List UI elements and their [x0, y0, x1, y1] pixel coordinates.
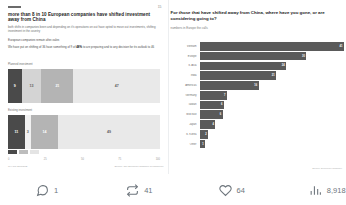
- bar-row: Other 1: [171, 140, 344, 149]
- like-button[interactable]: 64: [219, 184, 245, 197]
- left-chart-credit: CHART: EUROPE: [8, 165, 27, 168]
- bar-track: 1: [200, 140, 344, 149]
- bar-label: India: [171, 74, 200, 77]
- right-bar-chart: Vietnam 41 Europe 30: [171, 42, 344, 150]
- tweet-media-grid[interactable]: more than 8 in 10 European companies hav…: [0, 0, 346, 174]
- bar-track: 21: [200, 71, 344, 80]
- bar-value: 1: [202, 143, 203, 146]
- left-chart-source: Source: The European Chamber of commerce: [115, 165, 164, 168]
- like-count: 64: [237, 186, 245, 195]
- comment-icon: [36, 184, 49, 197]
- x-tick: 25: [44, 158, 47, 161]
- bar-fill: 16: [200, 81, 259, 90]
- kicker-rule: [8, 6, 21, 8]
- repost-button[interactable]: 41: [126, 184, 152, 197]
- left-chart-headline-number: 15: [158, 5, 162, 9]
- left-chart-legend: [8, 150, 39, 154]
- bar-label: Mid east: [171, 113, 200, 116]
- bar-value: 6: [221, 103, 222, 106]
- tweet-post: more than 8 in 10 European companies hav…: [0, 0, 346, 205]
- right-chart-source: Source: European Chamber: [312, 167, 342, 170]
- stack-segment: 13: [22, 69, 42, 103]
- bar-row: Europe 30: [171, 52, 344, 61]
- chart-image-left[interactable]: more than 8 in 10 European companies hav…: [0, 0, 169, 174]
- stacked-bar-1: 9 13 21 47: [8, 69, 160, 103]
- right-chart-subtitle: numbers in Europe the calls: [171, 26, 342, 30]
- left-chart-note-secondary: We have put on shifting of 36 have somet…: [8, 46, 160, 50]
- left-chart-footer: CHART: EUROPE Source: The European Chamb…: [8, 165, 164, 168]
- x-tick: 0: [8, 158, 9, 161]
- heart-icon: [219, 184, 232, 197]
- note-tail: to are preparing and to any decision for…: [83, 45, 154, 49]
- bar-fill: 6: [200, 110, 223, 119]
- retweet-icon: [126, 184, 139, 197]
- bar-label: Vietnam: [171, 45, 200, 48]
- bar-value: 21: [272, 74, 275, 77]
- stacked-bar-group-2: Existing investment 11 3 14 49: [8, 108, 164, 149]
- stack-segment: 49: [58, 115, 160, 149]
- bar-row: S. Korea 2: [171, 130, 344, 139]
- legend-swatch-already-shifted: [8, 150, 17, 154]
- note-bold-value: 48%: [76, 45, 82, 49]
- bar-track: 30: [200, 52, 344, 61]
- bar-row: India 21: [171, 71, 344, 80]
- stack-segment: 11: [8, 115, 25, 149]
- views-button[interactable]: 8,918: [309, 184, 346, 197]
- right-chart-headline: For those that have shifted away from Ch…: [171, 10, 345, 21]
- bar-fill: 2: [200, 130, 209, 139]
- reply-count: 1: [54, 186, 58, 195]
- x-tick: 100: [156, 158, 160, 161]
- bar-value: 24: [282, 64, 285, 67]
- bar-track: 7: [200, 91, 344, 100]
- bar-value: 7: [224, 94, 225, 97]
- bar-track: 16: [200, 81, 344, 90]
- bar-row: S. Asia 24: [171, 62, 344, 71]
- bar-track: 24: [200, 62, 344, 71]
- bar-fill: 30: [200, 52, 307, 61]
- stacked-bar-1-title: Planned investment: [8, 62, 164, 66]
- left-chart-header: more than 8 in 10 European companies hav…: [8, 6, 164, 50]
- views-count: 8,918: [327, 186, 346, 195]
- left-chart-x-axis: 0 25 50 75 100: [8, 158, 160, 161]
- bar-track: 6: [200, 110, 344, 119]
- left-chart-subtitle: both shifts in companies been and depend…: [8, 26, 160, 34]
- bar-track: 41: [200, 42, 344, 51]
- bar-fill: 6: [200, 101, 225, 110]
- bar-value: 16: [254, 84, 257, 87]
- bar-label: Japan: [171, 123, 200, 126]
- chart-image-right[interactable]: For those that have shifted away from Ch…: [169, 0, 346, 174]
- bar-fill: 4: [200, 120, 216, 129]
- analytics-icon: [309, 184, 322, 197]
- bar-label: Taiwan: [171, 103, 200, 106]
- left-chart-note: European companies remain after-sales: [8, 39, 160, 43]
- stacked-bar-2-title: Existing investment: [8, 108, 164, 112]
- bar-row: Taiwan 6: [171, 101, 344, 110]
- bar-row: Vietnam 41: [171, 42, 344, 51]
- bar-fill: 1: [200, 140, 206, 149]
- stack-segment: 21: [41, 69, 73, 103]
- stack-segment: 47: [73, 69, 160, 103]
- legend-swatch-considering: [19, 150, 28, 154]
- bar-track: 2: [200, 130, 344, 139]
- bar-label: S. Asia: [171, 64, 200, 67]
- stacked-bar-2: 11 3 14 49: [8, 115, 160, 149]
- bar-value: 6: [220, 113, 221, 116]
- bar-row: Germany 7: [171, 91, 344, 100]
- repost-count: 41: [144, 186, 152, 195]
- bar-row: Japan 4: [171, 120, 344, 129]
- stack-segment: 14: [31, 115, 58, 149]
- stacked-bar-group-1: Planned investment 9 13 21 47: [8, 62, 164, 103]
- bar-label: Other: [171, 143, 200, 146]
- right-chart-header: For those that have shifted away from Ch…: [171, 10, 342, 30]
- bar-track: 6: [200, 101, 344, 110]
- bar-value: 2: [205, 133, 206, 136]
- bar-fill: 7: [200, 91, 227, 100]
- bar-label: Americas: [171, 84, 200, 87]
- x-tick: 75: [118, 158, 121, 161]
- bar-label: Europe: [171, 55, 200, 58]
- bar-value: 41: [340, 45, 343, 48]
- reply-button[interactable]: 1: [36, 184, 58, 197]
- x-tick: 50: [81, 158, 84, 161]
- left-chart-headline: more than 8 in 10 European companies hav…: [8, 12, 156, 23]
- bar-row: Americas 16: [171, 81, 344, 90]
